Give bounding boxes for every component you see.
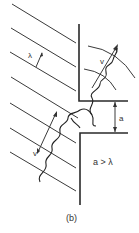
wavefront-line xyxy=(10,52,76,91)
condition-label: a > λ xyxy=(93,157,113,167)
velocity-label-incident: v xyxy=(33,149,37,158)
transmitted-wave: v xyxy=(90,44,118,115)
velocity-arrow-incident xyxy=(38,113,56,152)
slit-width-label: a xyxy=(119,114,124,123)
velocity-arrow-transmitted xyxy=(92,46,117,88)
diffracted-wavefronts xyxy=(84,46,135,90)
arrow-head-icon xyxy=(53,111,57,117)
wavy-ray-incident xyxy=(39,109,96,182)
wavefront-line xyxy=(11,28,76,67)
incident-wavefronts xyxy=(10,4,78,191)
arrow-up-icon xyxy=(113,102,117,107)
slit-width-dimension: a xyxy=(113,102,124,132)
arc-wavefront xyxy=(88,46,135,78)
wavefront-line xyxy=(11,77,78,118)
lower-wall xyxy=(80,133,128,205)
arrow-head-icon xyxy=(40,52,43,57)
arc-wavefront xyxy=(84,69,116,90)
wavelength-label: λ xyxy=(28,51,32,60)
arrow-down-icon xyxy=(113,127,117,132)
diffraction-diagram: λ a v v a > λ (b) xyxy=(0,0,139,233)
wavefront-line xyxy=(10,128,76,168)
panel-label: (b) xyxy=(66,213,77,223)
wavelength-marker: λ xyxy=(28,51,43,67)
velocity-label-transmitted: v xyxy=(100,57,104,66)
wavefront-line xyxy=(12,4,76,43)
wavy-ray-branch xyxy=(71,118,80,128)
wavefront-line xyxy=(10,103,76,143)
